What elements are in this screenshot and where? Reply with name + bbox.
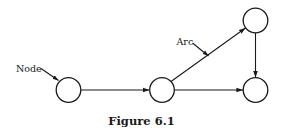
figure-caption: Figure 6.1 <box>108 114 174 128</box>
node-annotation: Node <box>16 63 59 81</box>
node-left <box>56 78 81 103</box>
node-label: Node <box>16 63 42 74</box>
node-middle <box>150 78 175 103</box>
arc-annotation: Arc <box>176 36 209 56</box>
arc-pointer-arrow <box>193 43 209 56</box>
graph-diagram: Node Arc Figure 6.1 <box>0 0 283 130</box>
node-top-right <box>243 8 268 33</box>
arc-label: Arc <box>176 36 194 47</box>
node-bottom-right <box>243 78 268 103</box>
nodes <box>56 8 268 102</box>
node-pointer-arrow <box>41 69 59 81</box>
